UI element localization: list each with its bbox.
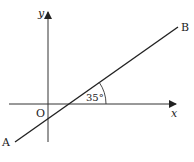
coordinate-diagram: y B O x A 35° bbox=[0, 0, 194, 162]
point-b-label: B bbox=[181, 21, 189, 34]
angle-label: 35° bbox=[86, 92, 104, 103]
x-axis-label: x bbox=[171, 107, 178, 120]
point-a-label: A bbox=[1, 136, 11, 149]
line-ab bbox=[15, 27, 178, 142]
y-axis-label: y bbox=[37, 7, 45, 20]
origin-label: O bbox=[36, 107, 45, 120]
